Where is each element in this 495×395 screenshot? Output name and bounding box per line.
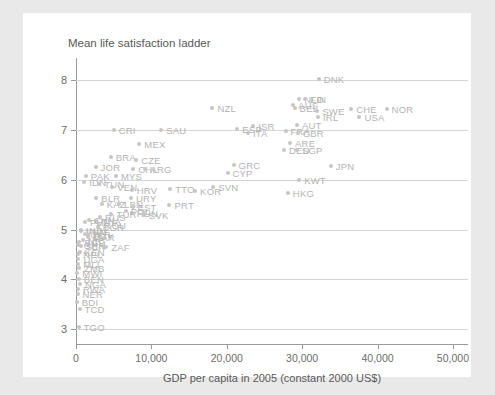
scatter-point-label: JPN xyxy=(336,161,355,172)
y-tick-mark xyxy=(71,80,76,81)
scatter-point xyxy=(79,244,83,248)
scatter-point xyxy=(100,202,104,206)
chart-card: Mean life satisfaction ladder 345678010,… xyxy=(23,13,471,377)
y-gridline xyxy=(76,329,468,330)
scatter-point xyxy=(226,171,230,175)
scatter-point xyxy=(317,77,321,81)
scatter-point xyxy=(109,155,113,159)
scatter-point xyxy=(296,131,300,135)
scatter-point xyxy=(210,106,214,110)
scatter-point-label: NZL xyxy=(217,103,236,114)
scatter-point xyxy=(329,164,333,168)
scatter-point xyxy=(316,115,320,119)
scatter-point xyxy=(134,158,138,162)
scatter-point-label: USA xyxy=(364,112,384,123)
scatter-point xyxy=(76,252,80,256)
x-tick-mark xyxy=(76,344,77,349)
y-gridline xyxy=(76,279,468,280)
scatter-point xyxy=(286,191,290,195)
x-tick-label: 0 xyxy=(73,352,79,364)
scatter-point xyxy=(142,213,146,217)
scatter-point xyxy=(76,287,80,291)
scatter-point xyxy=(114,174,118,178)
scatter-point xyxy=(78,282,82,286)
x-tick-mark xyxy=(151,344,152,349)
scatter-point xyxy=(75,271,79,275)
x-tick-mark xyxy=(227,344,228,349)
y-tick-label: 5 xyxy=(61,224,67,236)
scatter-point-label: SVK xyxy=(149,209,169,220)
x-tick-mark xyxy=(378,344,379,349)
scatter-point-label: KWT xyxy=(304,174,326,185)
scatter-point-label: TCD xyxy=(85,304,105,315)
scatter-point xyxy=(76,292,80,296)
x-tick-mark xyxy=(453,344,454,349)
scatter-point xyxy=(293,106,297,110)
y-tick-label: 6 xyxy=(61,174,67,186)
scatter-point xyxy=(168,187,172,191)
scatter-point xyxy=(137,142,141,146)
scatter-point-label: ITA xyxy=(253,127,268,138)
x-tick-label: 10,000 xyxy=(135,352,167,364)
scatter-point xyxy=(97,182,101,186)
y-tick-mark xyxy=(71,130,76,131)
scatter-point-label: NOR xyxy=(392,104,414,115)
scatter-point-label: SGP xyxy=(302,145,323,156)
scatter-point xyxy=(246,131,250,135)
scatter-point-label: CYP xyxy=(233,168,253,179)
scatter-point-label: VEN xyxy=(117,182,137,193)
plot-area: 345678010,00020,00030,00040,00050,000DNK… xyxy=(76,58,468,344)
scatter-point xyxy=(130,188,134,192)
scatter-point xyxy=(84,174,88,178)
scatter-point-label: HKG xyxy=(293,187,314,198)
scatter-point xyxy=(110,185,114,189)
scatter-point xyxy=(232,163,236,167)
scatter-point xyxy=(78,307,82,311)
scatter-point xyxy=(385,107,389,111)
scatter-point xyxy=(76,257,80,261)
scatter-point-label: TTO xyxy=(175,184,194,195)
scatter-point xyxy=(77,325,81,329)
y-gridline xyxy=(76,230,468,231)
scatter-point xyxy=(75,300,79,304)
scatter-point xyxy=(77,266,81,270)
scatter-point xyxy=(235,127,239,131)
scatter-point xyxy=(167,203,171,207)
x-tick-mark xyxy=(302,344,303,349)
y-tick-label: 8 xyxy=(61,74,67,86)
scatter-point-label: PRT xyxy=(174,200,193,211)
scatter-point-label: SAU xyxy=(166,125,186,136)
y-tick-mark xyxy=(71,230,76,231)
y-gridline xyxy=(76,80,468,81)
scatter-point xyxy=(77,277,81,281)
y-tick-mark xyxy=(71,180,76,181)
scatter-point xyxy=(112,128,116,132)
x-tick-label: 30,000 xyxy=(286,352,318,364)
scatter-point-label: ZAF xyxy=(111,242,130,253)
scatter-point xyxy=(94,196,98,200)
x-tick-label: 50,000 xyxy=(437,352,469,364)
scatter-point xyxy=(284,129,288,133)
x-axis-line xyxy=(76,344,468,345)
scatter-point xyxy=(349,107,353,111)
scatter-point-label: KOR xyxy=(200,186,221,197)
scatter-point-label: IRL xyxy=(323,111,338,122)
scatter-point xyxy=(94,165,98,169)
y-tick-label: 7 xyxy=(61,124,67,136)
y-tick-label: 3 xyxy=(61,323,67,335)
scatter-point-label: TGO xyxy=(84,321,105,332)
chart-title: Mean life satisfaction ladder xyxy=(68,37,211,49)
scatter-point xyxy=(357,115,361,119)
scatter-point-label: ARG xyxy=(150,163,171,174)
scatter-point xyxy=(282,148,286,152)
scatter-point xyxy=(143,167,147,171)
x-tick-label: 40,000 xyxy=(361,352,393,364)
x-tick-label: 20,000 xyxy=(211,352,243,364)
scatter-point xyxy=(193,189,197,193)
scatter-point-label: MEX xyxy=(144,139,165,150)
scatter-point xyxy=(297,178,301,182)
scatter-point xyxy=(117,202,121,206)
y-tick-mark xyxy=(71,279,76,280)
scatter-point xyxy=(295,148,299,152)
y-tick-label: 4 xyxy=(61,273,67,285)
